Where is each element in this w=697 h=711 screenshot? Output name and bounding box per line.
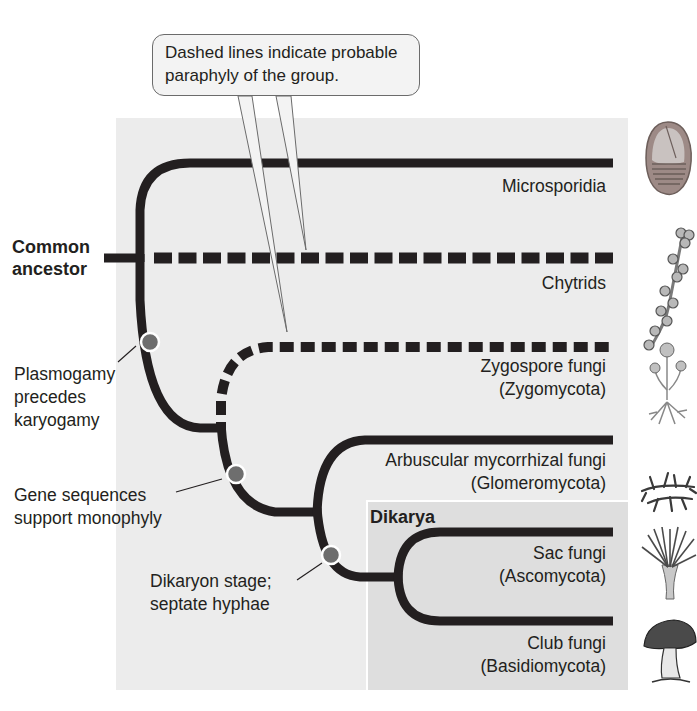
root-label-line-2: ancestor bbox=[12, 258, 90, 280]
event-line: precedes bbox=[14, 386, 115, 409]
microsporidia-spore-icon bbox=[640, 118, 696, 198]
taxon-name: Arbuscular mycorrhizal fungi bbox=[385, 449, 606, 472]
dikarya-label: Dikarya bbox=[370, 506, 435, 529]
event-line: support monophyly bbox=[14, 507, 162, 530]
leader-line-gene-sequences bbox=[176, 479, 222, 492]
taxon-name: Chytrids bbox=[542, 272, 606, 295]
leader-line-plasmogamy bbox=[118, 346, 136, 362]
root-label-line-1: Common bbox=[12, 236, 90, 258]
event-node-dikaryon bbox=[322, 546, 340, 564]
mushroom-icon bbox=[640, 616, 697, 688]
callout-line-2: paraphyly of the group. bbox=[165, 64, 407, 87]
mycorrhizal-fungus-icon bbox=[640, 465, 697, 515]
sac-fungus-icon bbox=[640, 525, 697, 600]
event-label-dikaryon: Dikaryon stage; septate hyphae bbox=[150, 570, 272, 616]
event-node-plasmogamy bbox=[141, 333, 159, 351]
taxon-name: Club fungi bbox=[481, 632, 606, 655]
taxon-label-chytrids: Chytrids bbox=[542, 272, 606, 295]
taxon-subname: (Zygomycota) bbox=[481, 378, 607, 401]
event-line: Dikaryon stage; bbox=[150, 570, 272, 593]
event-label-plasmogamy: Plasmogamy precedes karyogamy bbox=[14, 363, 115, 432]
taxon-name: Zygospore fungi bbox=[481, 355, 607, 378]
taxon-label-glomeromycota: Arbuscular mycorrhizal fungi (Glomeromyc… bbox=[385, 449, 606, 495]
event-line: Plasmogamy bbox=[14, 363, 115, 386]
callout-line-1: Dashed lines indicate probable bbox=[165, 41, 407, 64]
event-node-gene-sequences bbox=[227, 465, 245, 483]
taxon-label-basidiomycota: Club fungi (Basidiomycota) bbox=[481, 632, 606, 678]
taxon-subname: (Ascomycota) bbox=[499, 565, 606, 588]
taxon-label-ascomycota: Sac fungi (Ascomycota) bbox=[499, 542, 606, 588]
event-line: septate hyphae bbox=[150, 593, 272, 616]
taxon-subname: (Basidiomycota) bbox=[481, 655, 606, 678]
taxon-subname: (Glomeromycota) bbox=[385, 472, 606, 495]
event-label-gene-sequences: Gene sequences support monophyly bbox=[14, 484, 162, 530]
zygospore-fungus-icon bbox=[645, 340, 697, 430]
taxon-name: Microsporidia bbox=[502, 175, 606, 198]
root-label: Common ancestor bbox=[12, 236, 90, 280]
taxon-label-zygomycota: Zygospore fungi (Zygomycota) bbox=[481, 355, 607, 401]
event-line: Gene sequences bbox=[14, 484, 162, 507]
callout-pointers bbox=[238, 96, 306, 332]
taxon-name: Sac fungi bbox=[499, 542, 606, 565]
taxon-label-microsporidia: Microsporidia bbox=[502, 175, 606, 198]
event-line: karyogamy bbox=[14, 409, 115, 432]
paraphyly-callout: Dashed lines indicate probable paraphyly… bbox=[152, 34, 420, 96]
leader-line-dikaryon bbox=[297, 563, 322, 580]
